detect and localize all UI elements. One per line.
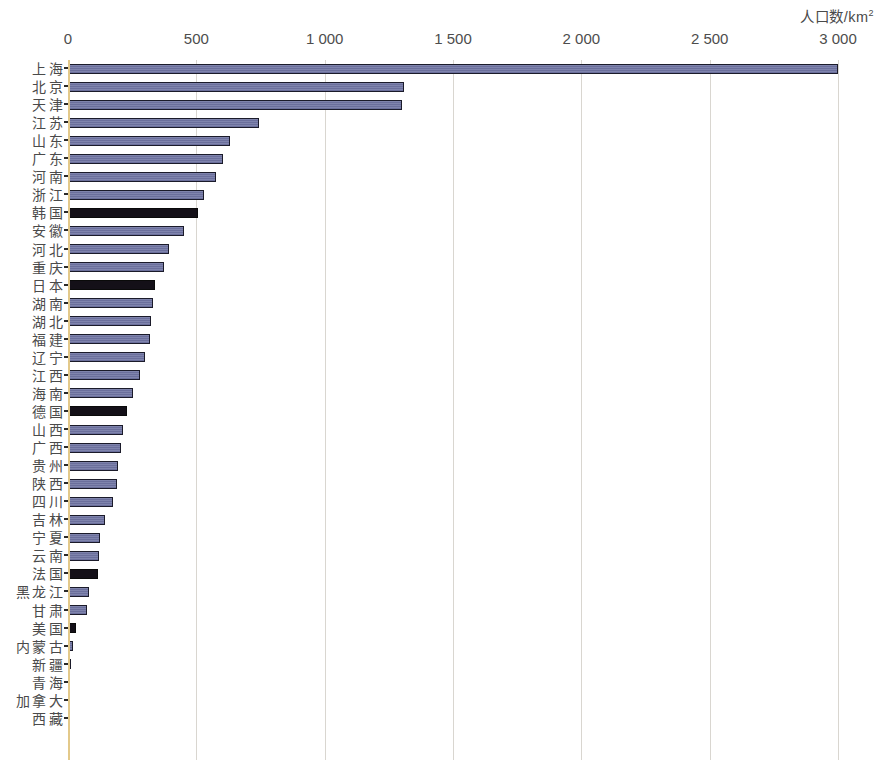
axis-title-superscript: 2 bbox=[868, 8, 874, 18]
bar bbox=[68, 569, 98, 579]
bar-row bbox=[68, 439, 882, 457]
bar-row bbox=[68, 385, 882, 403]
category-label: 浙江 bbox=[31, 186, 64, 204]
bar-row bbox=[68, 114, 882, 132]
bar bbox=[68, 587, 89, 597]
x-tick-label: 2 000 bbox=[563, 30, 601, 47]
x-tick-label: 1 500 bbox=[434, 30, 472, 47]
category-label: 云南 bbox=[31, 547, 64, 565]
bar bbox=[68, 551, 99, 561]
bar bbox=[68, 100, 402, 110]
x-tick-label: 1 000 bbox=[306, 30, 344, 47]
x-tick-label: 0 bbox=[64, 30, 72, 47]
category-label: 湖北 bbox=[31, 313, 64, 331]
bar-row bbox=[68, 204, 882, 222]
bar-row bbox=[68, 403, 882, 421]
category-label: 重庆 bbox=[31, 259, 64, 277]
category-label: 美国 bbox=[31, 620, 64, 638]
population-density-bar-chart: 人口数/km2 05001 0001 5002 0002 5003 000 上海… bbox=[0, 0, 882, 762]
bar bbox=[68, 118, 259, 128]
plot-area bbox=[68, 60, 882, 760]
bar bbox=[68, 461, 118, 471]
bar-row bbox=[68, 367, 882, 385]
bar-row bbox=[68, 656, 882, 674]
bar bbox=[68, 298, 153, 308]
bar bbox=[68, 533, 100, 543]
x-tick-label: 500 bbox=[184, 30, 209, 47]
bar-row bbox=[68, 96, 882, 114]
bar bbox=[68, 154, 223, 164]
category-label: 日本 bbox=[31, 277, 64, 295]
bar bbox=[68, 334, 150, 344]
category-label: 新疆 bbox=[31, 656, 64, 674]
bar bbox=[68, 425, 123, 435]
bar-row bbox=[68, 295, 882, 313]
bar bbox=[68, 352, 145, 362]
category-label: 山东 bbox=[31, 132, 64, 150]
bar bbox=[68, 479, 117, 489]
bar-row bbox=[68, 331, 882, 349]
bar-row bbox=[68, 277, 882, 295]
bar-row bbox=[68, 710, 882, 728]
bar-row bbox=[68, 313, 882, 331]
bar-row bbox=[68, 692, 882, 710]
bar bbox=[68, 82, 404, 92]
bar-row bbox=[68, 583, 882, 601]
bar bbox=[68, 515, 105, 525]
axis-title-text: 人口数/km bbox=[800, 9, 868, 25]
bar bbox=[68, 244, 169, 254]
category-label: 海南 bbox=[31, 385, 64, 403]
category-label: 宁夏 bbox=[31, 529, 64, 547]
category-label: 青海 bbox=[31, 674, 64, 692]
bar-row bbox=[68, 132, 882, 150]
bar-row bbox=[68, 421, 882, 439]
bar bbox=[68, 226, 184, 236]
bar-row bbox=[68, 565, 882, 583]
category-label: 内蒙古 bbox=[15, 638, 65, 656]
category-label: 四川 bbox=[31, 493, 64, 511]
category-label: 加拿大 bbox=[15, 692, 65, 710]
bar-row bbox=[68, 620, 882, 638]
bar bbox=[68, 136, 230, 146]
category-label: 湖南 bbox=[31, 295, 64, 313]
bar bbox=[68, 190, 204, 200]
x-axis-tick-labels: 05001 0001 5002 0002 5003 000 bbox=[0, 30, 882, 50]
y-axis-category-labels: 上海北京天津江苏山东广东河南浙江韩国安徽河北重庆日本湖南湖北福建辽宁江西海南德国… bbox=[0, 60, 66, 760]
bar-row bbox=[68, 60, 882, 78]
category-label: 江苏 bbox=[31, 114, 64, 132]
bar-row bbox=[68, 493, 882, 511]
category-label: 河南 bbox=[31, 168, 64, 186]
category-label: 山西 bbox=[31, 421, 64, 439]
x-tick-label: 3 000 bbox=[819, 30, 857, 47]
bar bbox=[68, 388, 133, 398]
bar-row bbox=[68, 222, 882, 240]
bar bbox=[68, 605, 87, 615]
category-label: 上海 bbox=[31, 60, 64, 78]
category-label: 江西 bbox=[31, 367, 64, 385]
bar-row bbox=[68, 349, 882, 367]
bar bbox=[68, 497, 113, 507]
category-label: 广西 bbox=[31, 439, 64, 457]
y-axis-line bbox=[68, 60, 70, 760]
bar-row bbox=[68, 259, 882, 277]
bar-row bbox=[68, 547, 882, 565]
bar-row bbox=[68, 78, 882, 96]
bar-row bbox=[68, 186, 882, 204]
bar bbox=[68, 208, 198, 218]
category-label: 河北 bbox=[31, 241, 64, 259]
bar bbox=[68, 443, 121, 453]
category-label: 吉林 bbox=[31, 511, 64, 529]
bar-row bbox=[68, 475, 882, 493]
category-label: 辽宁 bbox=[31, 349, 64, 367]
bar bbox=[68, 280, 155, 290]
category-label: 黑龙江 bbox=[15, 583, 65, 601]
bar-row bbox=[68, 602, 882, 620]
category-label: 法国 bbox=[31, 565, 64, 583]
category-label: 贵州 bbox=[31, 457, 64, 475]
bar-row bbox=[68, 511, 882, 529]
category-label: 韩国 bbox=[31, 204, 64, 222]
bar bbox=[68, 316, 151, 326]
category-label: 德国 bbox=[31, 403, 64, 421]
axis-title: 人口数/km2 bbox=[800, 5, 874, 26]
bar-row bbox=[68, 241, 882, 259]
